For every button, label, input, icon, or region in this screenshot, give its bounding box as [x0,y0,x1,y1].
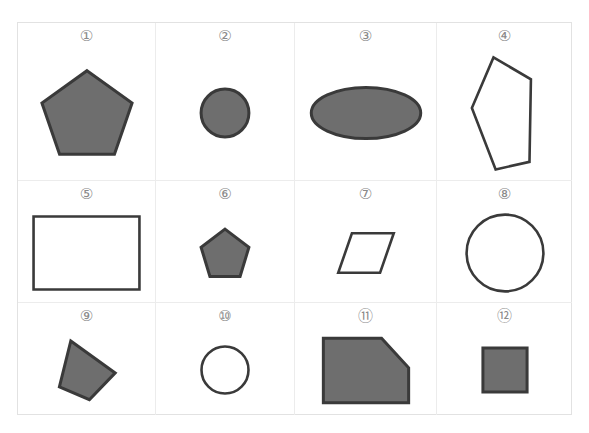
cut-corner-rectangle-glyph [323,338,408,402]
shape-label-4: ④ [437,27,572,45]
shape-cell-10[interactable]: ⑩ [156,303,295,415]
circle-glyph [466,214,543,291]
shape-rotated-quadrilateral-9 [18,325,155,415]
shape-ellipse-3 [295,45,436,180]
shape-circle-2 [156,45,294,180]
ellipse-glyph [311,87,420,138]
shape-label-6: ⑥ [156,185,294,203]
shape-label-3: ③ [295,27,436,45]
shape-square-12 [437,325,572,415]
shape-circle-10 [156,325,294,415]
shape-cell-1[interactable]: ① [18,23,156,181]
shape-cut-corner-rectangle-11 [295,325,436,415]
shape-cell-7[interactable]: ⑦ [295,181,437,303]
shape-rectangle-5 [18,203,155,302]
rectangle-glyph [34,216,140,289]
shape-cell-12[interactable]: ⑫ [437,303,572,415]
shapes-grid: ①②③④⑤⑥⑦⑧⑨⑩⑪⑫ [17,22,572,415]
circle-glyph [201,89,249,137]
shape-label-12: ⑫ [437,307,572,325]
square-glyph [482,348,526,392]
shape-label-11: ⑪ [295,307,436,325]
shape-cell-9[interactable]: ⑨ [18,303,156,415]
shape-pentagon-6 [156,203,294,302]
shape-pentagon-1 [18,45,155,180]
circle-glyph [202,347,249,394]
shape-cell-8[interactable]: ⑧ [437,181,572,303]
shape-label-2: ② [156,27,294,45]
shape-label-5: ⑤ [18,185,155,203]
rotated-quadrilateral-glyph [59,341,115,400]
shape-circle-8 [437,203,572,302]
shape-cell-5[interactable]: ⑤ [18,181,156,303]
shape-cell-11[interactable]: ⑪ [295,303,437,415]
shape-label-1: ① [18,27,155,45]
irregular-pentagon-glyph [471,57,530,169]
shape-label-9: ⑨ [18,307,155,325]
parallelogram-glyph [338,233,394,272]
shape-label-8: ⑧ [437,185,572,203]
shape-cell-6[interactable]: ⑥ [156,181,295,303]
shape-cell-4[interactable]: ④ [437,23,572,181]
shape-label-7: ⑦ [295,185,436,203]
shape-label-10: ⑩ [156,307,294,325]
shape-irregular-pentagon-4 [437,45,572,180]
shape-cell-2[interactable]: ② [156,23,295,181]
shape-parallelogram-7 [295,203,436,302]
pentagon-glyph [41,71,131,155]
shape-cell-3[interactable]: ③ [295,23,437,181]
pentagon-glyph [201,229,249,276]
